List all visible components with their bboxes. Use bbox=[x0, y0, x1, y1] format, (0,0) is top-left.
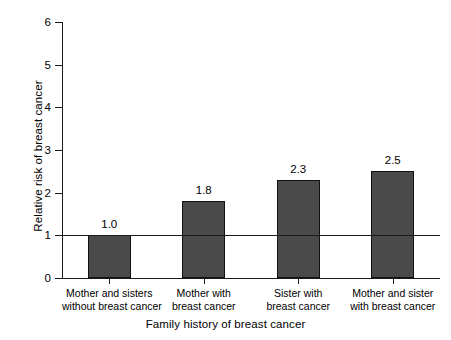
x-category-label-line: Mother and sisters bbox=[62, 287, 157, 300]
y-tick-mark bbox=[55, 193, 62, 194]
bar bbox=[371, 171, 414, 278]
x-category-label-line: with breast cancer bbox=[346, 300, 441, 313]
y-tick-label: 6 bbox=[7, 17, 51, 29]
bar-value-label: 1.0 bbox=[79, 219, 139, 231]
y-tick-mark bbox=[55, 65, 62, 66]
x-category-label: Mother and sisterswithout breast cancer bbox=[62, 287, 157, 312]
y-tick-mark bbox=[55, 235, 62, 236]
y-tick-label: 1 bbox=[7, 230, 51, 242]
y-tick-mark bbox=[55, 107, 62, 108]
x-tick-mark bbox=[204, 278, 205, 284]
y-tick-label: 5 bbox=[7, 60, 51, 72]
x-axis-line bbox=[62, 278, 440, 279]
bar bbox=[88, 235, 131, 278]
x-category-label-line: without breast cancer bbox=[62, 300, 157, 313]
bar-chart: Relative risk of breast cancer 0123456 1… bbox=[0, 0, 451, 340]
x-category-label-line: breast cancer bbox=[157, 300, 252, 313]
x-tick-mark bbox=[109, 278, 110, 284]
bar-value-label: 1.8 bbox=[174, 185, 234, 197]
bar bbox=[277, 180, 320, 278]
x-category-label: Sister withbreast cancer bbox=[251, 287, 346, 312]
x-category-label-line: Mother with bbox=[157, 287, 252, 300]
reference-line-at-1 bbox=[62, 235, 440, 236]
x-category-label-line: Mother and sister bbox=[346, 287, 441, 300]
x-category-label-line: Sister with bbox=[251, 287, 346, 300]
x-tick-mark bbox=[393, 278, 394, 284]
y-tick-mark bbox=[55, 278, 62, 279]
y-tick-label: 3 bbox=[7, 145, 51, 157]
bar-value-label: 2.5 bbox=[363, 155, 423, 167]
y-tick-mark bbox=[55, 22, 62, 23]
x-category-label: Mother withbreast cancer bbox=[157, 287, 252, 312]
x-tick-mark bbox=[298, 278, 299, 284]
y-tick-label: 0 bbox=[7, 273, 51, 285]
y-tick-label: 2 bbox=[7, 188, 51, 200]
bar bbox=[182, 201, 225, 278]
x-axis-title: Family history of breast cancer bbox=[0, 318, 451, 330]
y-axis-line bbox=[62, 22, 63, 279]
y-tick-label: 4 bbox=[7, 102, 51, 114]
x-category-label: Mother and sisterwith breast cancer bbox=[346, 287, 441, 312]
bar-value-label: 2.3 bbox=[268, 164, 328, 176]
y-tick-mark bbox=[55, 150, 62, 151]
x-category-label-line: breast cancer bbox=[251, 300, 346, 313]
